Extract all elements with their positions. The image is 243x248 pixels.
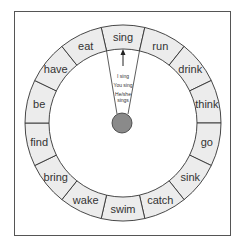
segment-label-sink: sink (180, 171, 200, 183)
spinner-hub[interactable] (112, 113, 132, 133)
segment-label-find: find (30, 136, 48, 148)
arrowhead-icon (121, 49, 126, 55)
segment-label-run: run (152, 40, 168, 52)
pointer-wedge[interactable]: I sing You sing He/she sings (107, 49, 140, 114)
segment-label-eat: eat (78, 40, 93, 52)
segment-label-go: go (201, 136, 213, 148)
segment-label-swim: swim (110, 203, 135, 215)
segment-label-think: think (195, 98, 219, 110)
segment-label-sing: sing (113, 31, 133, 43)
segment-label-drink: drink (178, 63, 202, 75)
segment-label-be: be (33, 98, 45, 110)
segment-label-catch: catch (147, 194, 173, 206)
segment-label-wake: wake (72, 194, 99, 206)
verb-wheel: singrundrinkthinkgosinkcatchswimwakebrin… (0, 0, 243, 248)
segment-label-have: have (44, 63, 68, 75)
conjugation-4: sings (117, 97, 129, 103)
conjugation-1: I sing (117, 73, 129, 79)
segment-label-bring: bring (44, 171, 68, 183)
conjugation-2: You sing (114, 82, 133, 88)
